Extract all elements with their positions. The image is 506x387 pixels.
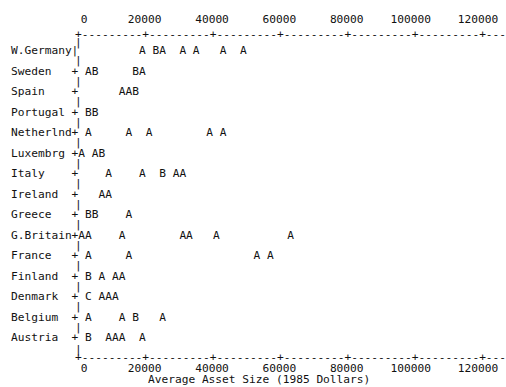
plot-row-g-britain: G.Britain+AA A AA A A [11, 230, 294, 242]
top-axis-line: +---------+---------+---------+---------… [75, 29, 506, 41]
plot-row-netherlnd: Netherlnd+ A A A A A [11, 127, 227, 139]
plot-row-italy: Italy + A A B AA [11, 168, 186, 180]
plot-row-france: France + A A A A [11, 250, 274, 262]
plot-row-greece: Greece + BB A [11, 209, 132, 221]
plot-row-denmark: Denmark + C AAA [11, 291, 119, 303]
top-axis-tick-labels: 0 20000 40000 60000 80000 100000 120000 [47, 14, 498, 26]
plot-row-belgium: Belgium + A A B A [11, 312, 166, 324]
plot-row-finland: Finland + B A AA [11, 271, 126, 283]
plot-row-ireland: Ireland + AA [11, 189, 112, 201]
x-axis-title: Average Asset Size (1985 Dollars) [148, 374, 370, 386]
plot-row-portugal: Portugal + BB [11, 107, 99, 119]
plot-row-w-germany: W.Germany| A BA A A A A [11, 45, 247, 57]
plot-row-luxembrg: Luxembrg +A AB [11, 148, 105, 160]
